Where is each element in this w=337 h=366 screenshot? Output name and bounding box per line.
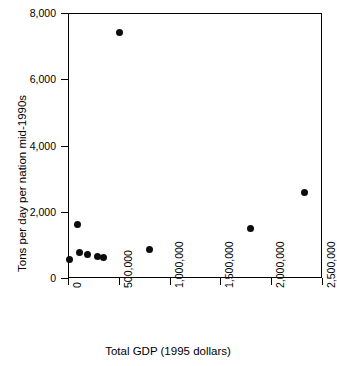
data-point xyxy=(100,254,107,261)
data-point xyxy=(301,189,308,196)
y-axis-title: Tons per day per nation mid-1990s xyxy=(16,95,29,272)
data-point xyxy=(247,225,254,232)
x-axis-tick-label: 2,500,000 xyxy=(326,241,337,288)
data-point xyxy=(66,256,73,263)
y-axis-tick xyxy=(61,146,68,147)
data-point xyxy=(116,29,123,36)
x-axis-tick xyxy=(170,278,171,285)
x-axis-tick xyxy=(220,278,221,285)
x-axis-tick-label: 1,500,000 xyxy=(224,241,235,288)
x-axis-tick xyxy=(322,278,323,285)
x-axis-tick xyxy=(119,278,120,285)
x-axis-tick-label: 0 xyxy=(72,282,83,288)
data-point xyxy=(74,221,81,228)
y-axis-tick xyxy=(61,278,68,279)
y-axis-tick xyxy=(61,13,68,14)
x-axis-tick xyxy=(271,278,272,285)
data-point xyxy=(76,249,83,256)
x-axis-tick-label: 500,000 xyxy=(123,250,134,288)
data-point xyxy=(84,251,91,258)
y-axis-tick xyxy=(61,79,68,80)
x-axis-tick xyxy=(68,278,69,285)
y-axis-tick xyxy=(61,212,68,213)
x-axis-title: Total GDP (1995 dollars) xyxy=(0,345,336,358)
data-points-layer xyxy=(68,13,322,278)
x-axis-tick-label: 2,000,000 xyxy=(275,241,286,288)
y-axis-tick-label: 6,000 xyxy=(0,74,56,85)
y-axis-tick-label: 0 xyxy=(0,273,56,284)
x-axis-tick-label: 1,000,000 xyxy=(174,241,185,288)
data-point xyxy=(146,246,153,253)
y-axis-tick-label: 8,000 xyxy=(0,8,56,19)
